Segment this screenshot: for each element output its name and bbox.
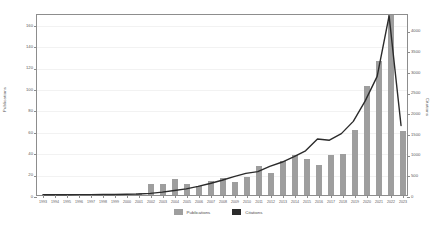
- bar-2021: [376, 61, 381, 195]
- bar-2013: [280, 161, 285, 195]
- y-axis-right-tick-label: 0: [411, 195, 413, 199]
- y-axis-left-tick: [34, 69, 37, 70]
- bar-2002: [148, 184, 153, 195]
- y-axis-right-tick-label: 3500: [411, 50, 420, 54]
- x-axis-tick: [307, 195, 308, 198]
- y-axis-left-tick-label: 60: [28, 131, 33, 135]
- x-axis-tick: [319, 195, 320, 198]
- x-axis-tick-label: 2003: [159, 201, 167, 205]
- x-axis-tick-label: 2008: [219, 201, 227, 205]
- bar-2015: [304, 159, 309, 195]
- x-axis-tick-label: 2006: [195, 201, 203, 205]
- y-axis-right-tick: [407, 52, 410, 53]
- gridline: [37, 90, 407, 91]
- x-axis-tick: [55, 195, 56, 198]
- y-axis-left-tick: [34, 90, 37, 91]
- y-axis-right-tick-label: 4000: [411, 29, 420, 33]
- x-axis-tick-label: 2017: [327, 201, 335, 205]
- legend-label: Citations: [245, 210, 262, 215]
- x-axis-tick-label: 1999: [111, 201, 119, 205]
- x-axis-tick: [379, 195, 380, 198]
- x-axis-tick: [355, 195, 356, 198]
- x-axis-tick-label: 2010: [243, 201, 251, 205]
- x-axis-tick: [115, 195, 116, 198]
- legend-item-publications[interactable]: Publications: [174, 209, 211, 215]
- bar-2023: [400, 131, 405, 195]
- x-axis-tick: [199, 195, 200, 198]
- x-axis-tick: [43, 195, 44, 198]
- x-axis-tick-label: 2018: [339, 201, 347, 205]
- y-axis-left-tick: [34, 111, 37, 112]
- x-axis-tick: [259, 195, 260, 198]
- plot-area: 0204060801001201401600500100015002000250…: [36, 14, 408, 196]
- y-axis-left-tick-label: 140: [26, 45, 33, 49]
- x-axis-tick: [235, 195, 236, 198]
- y-axis-left-tick: [34, 176, 37, 177]
- x-axis-tick-label: 2012: [267, 201, 275, 205]
- x-axis-tick: [403, 195, 404, 198]
- x-axis-tick: [367, 195, 368, 198]
- bar-2018: [340, 154, 345, 195]
- y-axis-left-title: Publications: [2, 87, 7, 112]
- y-axis-right-tick-label: 2000: [411, 112, 420, 116]
- y-axis-right-tick: [407, 32, 410, 33]
- y-axis-left-tick-label: 160: [26, 24, 33, 28]
- x-axis-tick-label: 2014: [291, 201, 299, 205]
- bar-2019: [352, 130, 357, 195]
- legend-swatch-icon: [174, 209, 183, 215]
- x-axis-tick: [103, 195, 104, 198]
- x-axis-tick: [175, 195, 176, 198]
- gridline: [37, 47, 407, 48]
- x-axis-tick-label: 2020: [363, 201, 371, 205]
- bar-2004: [172, 179, 177, 195]
- y-axis-right-tick-label: 2500: [411, 91, 420, 95]
- bar-2020: [364, 86, 369, 195]
- bar-2005: [184, 184, 189, 195]
- x-axis-tick-label: 2002: [147, 201, 155, 205]
- y-axis-right-tick-label: 1500: [411, 133, 420, 137]
- y-axis-right-tick: [407, 176, 410, 177]
- bar-2003: [160, 184, 165, 195]
- x-axis-tick-label: 1996: [75, 201, 83, 205]
- legend-label: Publications: [187, 210, 211, 215]
- x-axis-tick-label: 2016: [315, 201, 323, 205]
- x-axis-tick-label: 2021: [375, 201, 383, 205]
- x-axis-tick: [211, 195, 212, 198]
- bar-2006: [196, 186, 201, 195]
- publications-citations-chart: Publications Citations 02040608010012014…: [0, 0, 436, 230]
- gridline: [37, 111, 407, 112]
- x-axis-tick-label: 1995: [63, 201, 71, 205]
- x-axis-tick-label: 2009: [231, 201, 239, 205]
- x-axis-tick: [151, 195, 152, 198]
- bar-2014: [292, 155, 297, 195]
- y-axis-right-tick: [407, 114, 410, 115]
- x-axis-tick-label: 1998: [99, 201, 107, 205]
- x-axis-tick: [283, 195, 284, 198]
- x-axis-tick: [295, 195, 296, 198]
- x-axis-tick: [91, 195, 92, 198]
- y-axis-left-tick-label: 0: [31, 195, 33, 199]
- y-axis-left-tick-label: 80: [28, 109, 33, 113]
- y-axis-left-tick-label: 40: [28, 152, 33, 156]
- bar-2008: [220, 178, 225, 195]
- x-axis-tick: [223, 195, 224, 198]
- x-axis-tick-label: 2007: [207, 201, 215, 205]
- x-axis-tick-label: 2005: [183, 201, 191, 205]
- y-axis-left-tick: [34, 47, 37, 48]
- x-axis-tick-label: 2011: [255, 201, 263, 205]
- y-axis-right-tick: [407, 94, 410, 95]
- x-axis-tick: [163, 195, 164, 198]
- x-axis-tick: [79, 195, 80, 198]
- legend-item-citations[interactable]: Citations: [232, 209, 262, 215]
- x-axis-tick: [127, 195, 128, 198]
- x-axis-tick: [343, 195, 344, 198]
- x-axis-tick: [331, 195, 332, 198]
- bar-2009: [232, 182, 237, 195]
- x-axis-tick-label: 2013: [279, 201, 287, 205]
- y-axis-left-tick: [34, 197, 37, 198]
- y-axis-left-tick: [34, 154, 37, 155]
- x-axis-tick-label: 2022: [387, 201, 395, 205]
- x-axis-tick: [247, 195, 248, 198]
- x-axis-tick-label: 2000: [123, 201, 131, 205]
- x-axis-tick-label: 2015: [303, 201, 311, 205]
